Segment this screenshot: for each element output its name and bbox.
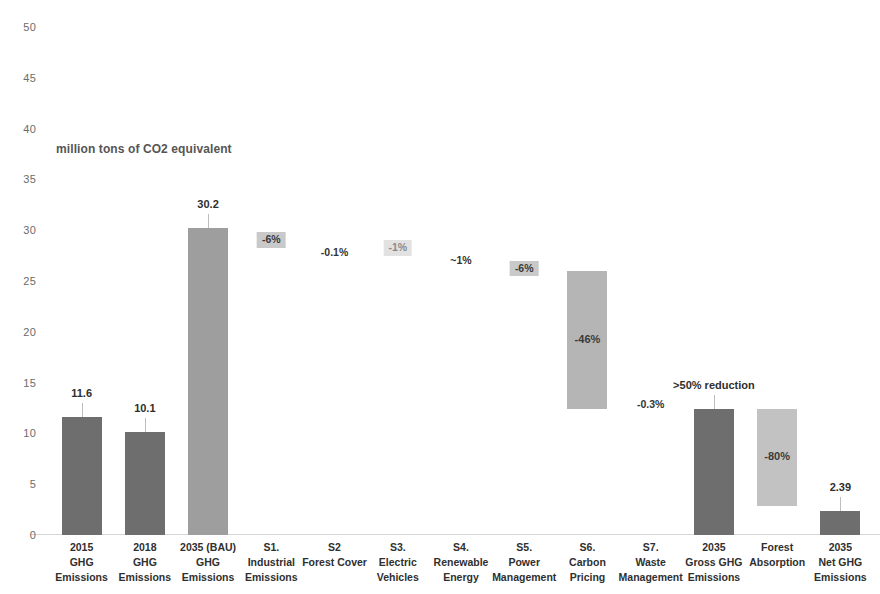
x-axis-label-line: Gross GHG (685, 555, 742, 570)
bar-ghg-2018[interactable] (125, 432, 165, 535)
x-axis-label-line: 2035 (685, 540, 742, 555)
annotation-s2-forest-cover: -0.1% (316, 245, 353, 261)
leader-line-gross-ghg-2035 (714, 395, 715, 409)
x-axis-label-line: Waste (619, 555, 683, 570)
x-axis-label-line: Forest (749, 540, 805, 555)
x-axis-label-s5-power-management: S5.PowerManagement (492, 540, 556, 586)
y-axis-tick-40: 40 (23, 123, 44, 135)
annotation-s7-waste-management: -0.3% (632, 397, 669, 413)
x-axis-label-s4-renewable-energy: S4.RenewableEnergy (434, 540, 489, 586)
x-axis-label-s1-industrial-emissions: S1.IndustrialEmissions (245, 540, 298, 586)
value-label-ghg-2015: 11.6 (71, 387, 92, 399)
annotation-s1-industrial-emissions: -6% (257, 232, 286, 248)
x-axis-label-line: Electric (377, 555, 419, 570)
x-axis-label-line: 2035 (BAU) (180, 540, 236, 555)
x-axis-label-line: Emissions (245, 570, 298, 585)
x-axis-label-line: Net GHG (814, 555, 867, 570)
x-axis-label-line: S3. (377, 540, 419, 555)
x-axis-label-line: Emissions (180, 570, 236, 585)
y-axis-tick-15: 15 (23, 377, 44, 389)
x-axis-label-line: S6. (569, 540, 606, 555)
x-axis-label-line: GHG (55, 555, 108, 570)
y-axis-tick-5: 5 (30, 478, 44, 490)
x-axis-label-line: Carbon (569, 555, 606, 570)
x-axis-label-s2-forest-cover: S2Forest Cover (302, 540, 367, 570)
bar-inner-label-forest-absorption: -80% (757, 450, 797, 462)
bar-ghg-2015[interactable] (62, 417, 102, 535)
annotation-s3-electric-vehicles: -1% (383, 240, 412, 256)
x-axis-label-line: S2 (302, 540, 367, 555)
x-axis-label-ghg-2018: 2018GHGEmissions (119, 540, 172, 586)
x-axis-label-line: 2018 (119, 540, 172, 555)
x-axis-label-line: 2015 (55, 540, 108, 555)
value-label-ghg-2035-bau: 30.2 (197, 198, 218, 210)
leader-line-ghg-2035-bau (208, 214, 209, 228)
x-axis-label-line: Emissions (119, 570, 172, 585)
bar-forest-absorption[interactable]: -80% (757, 409, 797, 506)
x-axis-label-line: Absorption (749, 555, 805, 570)
x-axis-label-ghg-2015: 2015GHGEmissions (55, 540, 108, 586)
y-axis-tick-45: 45 (23, 72, 44, 84)
y-axis-tick-25: 25 (23, 275, 44, 287)
x-axis-label-line: Emissions (685, 570, 742, 585)
bar-net-ghg-2035[interactable] (820, 511, 860, 535)
x-axis-label-line: GHG (119, 555, 172, 570)
x-axis-label-ghg-2035-bau: 2035 (BAU)GHGEmissions (180, 540, 236, 586)
x-axis-label-s7-waste-management: S7.WasteManagement (619, 540, 683, 586)
bar-inner-label-s6-carbon-pricing: -46% (567, 333, 607, 345)
value-label-net-ghg-2035: 2.39 (830, 481, 851, 493)
x-axis-label-gross-ghg-2035: 2035Gross GHGEmissions (685, 540, 742, 586)
x-axis-label-line: Vehicles (377, 570, 419, 585)
y-axis-tick-10: 10 (23, 427, 44, 439)
x-axis-label-line: S4. (434, 540, 489, 555)
x-axis-label-s6-carbon-pricing: S6.CarbonPricing (569, 540, 606, 586)
x-axis-label-line: Management (492, 570, 556, 585)
x-axis-label-line: Energy (434, 570, 489, 585)
x-axis-label-line: Pricing (569, 570, 606, 585)
y-axis-tick-20: 20 (23, 326, 44, 338)
x-axis-label-line: Emissions (55, 570, 108, 585)
x-axis-label-line: S7. (619, 540, 683, 555)
x-axis-label-line: Industrial (245, 555, 298, 570)
annotation-s4-renewable-energy: ~1% (445, 253, 476, 269)
leader-line-net-ghg-2035 (840, 497, 841, 511)
x-axis-label-s3-electric-vehicles: S3.ElectricVehicles (377, 540, 419, 586)
bar-gross-ghg-2035[interactable] (694, 409, 734, 535)
plot-area: 5045403530252015105011.610.130.2-6%-0.1%… (44, 27, 866, 535)
x-axis-label-line: Renewable (434, 555, 489, 570)
y-axis-tick-0: 0 (30, 529, 44, 541)
x-axis-label-line: Forest Cover (302, 555, 367, 570)
leader-line-ghg-2015 (82, 403, 83, 417)
value-label-gross-ghg-2035: >50% reduction (673, 379, 755, 391)
x-axis-label-net-ghg-2035: 2035Net GHGEmissions (814, 540, 867, 586)
x-axis-label-line: 2035 (814, 540, 867, 555)
x-axis-label-line: GHG (180, 555, 236, 570)
value-label-ghg-2018: 10.1 (134, 402, 155, 414)
leader-line-ghg-2018 (145, 418, 146, 432)
bar-ghg-2035-bau[interactable] (188, 228, 228, 535)
x-axis-label-forest-absorption: ForestAbsorption (749, 540, 805, 570)
x-axis-label-line: Management (619, 570, 683, 585)
x-axis-label-line: S5. (492, 540, 556, 555)
y-axis-tick-35: 35 (23, 173, 44, 185)
y-axis-tick-50: 50 (23, 21, 44, 33)
x-axis-label-line: S1. (245, 540, 298, 555)
x-axis-label-line: Power (492, 555, 556, 570)
bar-s6-carbon-pricing[interactable]: -46% (567, 271, 607, 409)
annotation-s5-power-management: -6% (510, 261, 539, 277)
y-axis-tick-30: 30 (23, 224, 44, 236)
x-axis-label-line: Emissions (814, 570, 867, 585)
